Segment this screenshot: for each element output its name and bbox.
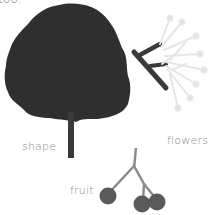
shape-label: shape xyxy=(22,140,56,153)
fruit-label: fruit xyxy=(70,184,94,197)
tree-illustration xyxy=(0,0,215,215)
tree-shape-icon xyxy=(5,4,131,158)
flowers-label: flowers xyxy=(167,134,208,147)
fruit-icon xyxy=(100,148,166,213)
flowers-icon xyxy=(160,16,207,111)
twig-icon xyxy=(134,44,166,88)
